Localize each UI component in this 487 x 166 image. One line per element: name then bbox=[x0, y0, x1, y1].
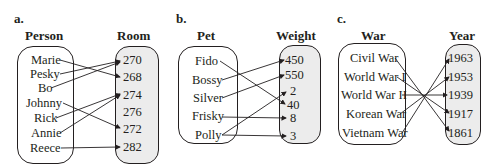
range-title: Weight bbox=[276, 28, 316, 44]
range-item: 2 bbox=[290, 84, 296, 98]
range-item: 268 bbox=[123, 70, 142, 84]
domain-item: World War I bbox=[344, 70, 406, 84]
domain-item: Rick bbox=[34, 111, 58, 125]
panel-b: b. Pet Weight Fido Bossy Silver Frisky P… bbox=[160, 0, 325, 166]
range-item: 274 bbox=[123, 88, 142, 102]
domain-item: Marie bbox=[31, 53, 61, 67]
range-item: 8 bbox=[290, 111, 296, 125]
range-item: 282 bbox=[123, 140, 142, 154]
range-item: 1861 bbox=[448, 126, 473, 140]
domain-title: War bbox=[361, 28, 386, 44]
range-item: 3 bbox=[290, 129, 296, 143]
range-item: 40 bbox=[287, 98, 300, 112]
domain-title: Pet bbox=[197, 28, 215, 44]
range-item: 276 bbox=[123, 105, 142, 119]
panel-label: c. bbox=[337, 11, 346, 27]
panel-a: a. Person Room Marie Pesky Bo Johnny Ric… bbox=[0, 0, 160, 166]
domain-item: Annie bbox=[31, 126, 62, 140]
range-item: 450 bbox=[285, 53, 304, 67]
domain-item: Korean War bbox=[346, 107, 406, 121]
domain-item: Vietnam War bbox=[342, 126, 408, 140]
domain-item: Bo bbox=[38, 81, 53, 95]
domain-item: Silver bbox=[193, 91, 223, 105]
panel-label: a. bbox=[14, 11, 24, 27]
range-item: 1917 bbox=[448, 107, 473, 121]
domain-item: Pesky bbox=[30, 67, 60, 81]
panel-c: c. War Year Civil War World War I World … bbox=[325, 0, 487, 166]
panel-label: b. bbox=[176, 11, 186, 27]
domain-item: Bossy bbox=[192, 73, 223, 87]
domain-item: Frisky bbox=[192, 109, 224, 123]
range-item: 1953 bbox=[448, 70, 473, 84]
range-item: 1939 bbox=[448, 88, 473, 102]
range-item: 270 bbox=[123, 53, 142, 67]
domain-item: Fido bbox=[195, 54, 218, 68]
range-item: 550 bbox=[285, 68, 304, 82]
range-title: Year bbox=[449, 28, 475, 44]
range-item: 1963 bbox=[448, 51, 473, 65]
domain-item: Reece bbox=[30, 141, 61, 155]
range-title: Room bbox=[117, 28, 150, 44]
range-item: 272 bbox=[123, 122, 142, 136]
domain-item: World War II bbox=[341, 88, 407, 102]
domain-title: Person bbox=[25, 28, 63, 44]
domain-item: Johnny bbox=[26, 96, 62, 110]
domain-item: Polly bbox=[195, 128, 221, 142]
domain-item: Civil War bbox=[350, 51, 398, 65]
